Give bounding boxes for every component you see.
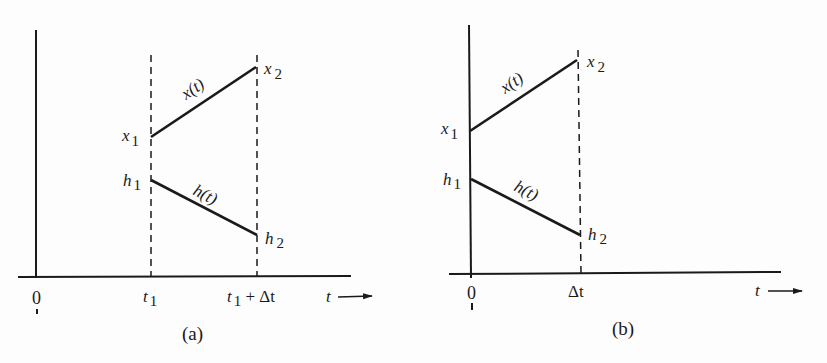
t-axis-arrow-icon — [338, 296, 372, 297]
x-axis — [18, 276, 351, 277]
h1-label: h1 — [123, 171, 141, 193]
caption-b: (b) — [612, 318, 634, 340]
h1-label: h1 — [443, 170, 461, 192]
x-of-t-label: x(t) — [496, 68, 527, 98]
x1-label: x1 — [440, 119, 458, 142]
panel-b: x(t) h(t) x1 x2 h1 h2 0 Δt t (b) — [440, 25, 802, 340]
x-of-t-line — [151, 67, 256, 137]
y-axis — [469, 25, 471, 278]
t-axis-label: t — [326, 287, 332, 306]
h2-label: h2 — [588, 225, 607, 247]
origin-label: 0 — [32, 288, 41, 308]
x-of-t-label: x(t) — [177, 74, 208, 104]
tick-t1-plus-dt-label: t1 + Δt — [227, 287, 275, 309]
t-axis-label: t — [755, 281, 761, 300]
origin-label: 0 — [467, 283, 476, 303]
tick-t1-label: t1 — [143, 287, 157, 309]
x-axis — [449, 272, 781, 274]
x1-label: x1 — [121, 126, 139, 149]
panel-a: x(t) h(t) x1 x2 h1 h2 0 t1 t1 + Δt t (a) — [18, 30, 372, 345]
h2-label: h2 — [265, 229, 284, 251]
dashed-line-dt — [578, 50, 581, 273]
x2-label: x2 — [586, 52, 605, 75]
tick-dt-label: Δt — [568, 282, 584, 301]
x2-label: x2 — [263, 59, 282, 82]
h-of-t-label: h(t) — [190, 181, 221, 209]
figure: x(t) h(t) x1 x2 h1 h2 0 t1 t1 + Δt t (a)… — [0, 0, 827, 363]
x-of-t-line — [470, 60, 577, 131]
diagram-svg: x(t) h(t) x1 x2 h1 h2 0 t1 t1 + Δt t (a)… — [0, 0, 827, 363]
caption-a: (a) — [182, 323, 203, 345]
